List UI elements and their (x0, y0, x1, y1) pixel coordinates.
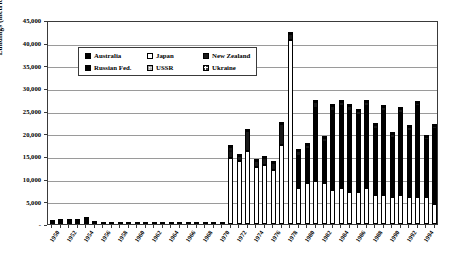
bar-segment (407, 125, 412, 127)
legend-swatch-russian-fed (85, 65, 91, 71)
bar-segment (177, 222, 182, 224)
legend-item-russian-fed[interactable]: Russian Fed. (85, 64, 147, 71)
bar-segment (398, 195, 403, 224)
y-axis-tick-label: 5,000 (0, 199, 41, 206)
bar-segment (296, 188, 301, 224)
bar-stack (203, 223, 208, 224)
bar-segment (305, 145, 310, 150)
bar-stack (296, 151, 301, 224)
legend-row: Russian Fed. USSR Ukraine (85, 64, 250, 71)
x-axis-tick-mark (417, 225, 418, 228)
bar-segment (262, 165, 267, 224)
bar-segment (143, 222, 148, 224)
gridline (48, 181, 437, 182)
x-axis-tick-label: 1994 (415, 229, 434, 253)
bar-segment (254, 167, 259, 224)
bar-segment (50, 220, 55, 224)
bar-stack (398, 109, 403, 224)
bar-segment (194, 222, 199, 224)
bar-stack (228, 147, 233, 224)
bar-segment (356, 115, 361, 192)
gridline (48, 113, 437, 114)
gridline (48, 158, 437, 159)
bar-stack (50, 220, 55, 224)
bar-segment (330, 111, 335, 190)
legend-item-australia[interactable]: Australia (85, 52, 147, 59)
bar-segment (305, 149, 310, 183)
bar-segment (58, 219, 63, 224)
bar-stack (237, 156, 242, 224)
legend-item-ussr[interactable]: USSR (147, 64, 203, 71)
bar-stack (347, 106, 352, 224)
x-axis-tick-mark (213, 225, 214, 228)
legend-swatch-ukraine (203, 65, 209, 71)
x-axis-tick-mark (102, 225, 103, 228)
bar-segment (373, 129, 378, 195)
bar-segment (330, 104, 335, 106)
bar-stack (373, 125, 378, 224)
bar-segment (279, 124, 284, 144)
x-axis-tick-mark (170, 225, 171, 228)
bar-segment (296, 149, 301, 151)
chart-container: Landings (metric tons) -5,00010,00015,00… (0, 0, 451, 267)
bar-segment (373, 123, 378, 125)
x-axis-tick-mark (179, 225, 180, 228)
y-axis-tick-label: 10,000 (0, 176, 41, 183)
bar-segment (381, 195, 386, 224)
bar-stack (67, 219, 72, 224)
x-axis-tick-mark (400, 225, 401, 228)
bar-segment (237, 161, 242, 224)
bar-segment (203, 222, 208, 224)
bar-segment (347, 104, 352, 106)
bar-segment (339, 100, 344, 102)
legend-item-japan[interactable]: Japan (147, 52, 203, 59)
bar-segment (313, 100, 318, 102)
bar-segment (92, 221, 97, 224)
legend-item-ukraine[interactable]: Ukraine (203, 64, 236, 71)
bar-segment (364, 188, 369, 224)
bar-segment (398, 107, 403, 109)
bar-segment (424, 140, 429, 197)
bar-segment (169, 222, 174, 224)
bar-segment (424, 135, 429, 137)
bar-segment (364, 106, 369, 188)
bar-stack (135, 222, 140, 224)
y-axis-tick-label: - (0, 221, 41, 228)
bar-segment (262, 158, 267, 165)
bar-segment (322, 136, 327, 138)
bar-segment (415, 106, 420, 197)
bar-stack (152, 222, 157, 224)
x-axis-tick-mark (332, 225, 333, 228)
gridline (48, 135, 437, 136)
bar-segment (424, 137, 429, 141)
x-axis-tick-mark (85, 225, 86, 228)
bar-segment (322, 138, 327, 143)
bar-stack (356, 110, 361, 224)
legend-swatch-ussr (147, 65, 153, 71)
bar-segment (322, 183, 327, 224)
bar-segment (330, 190, 335, 224)
bar-segment (305, 143, 310, 145)
bar-segment (254, 161, 259, 168)
bar-segment (228, 158, 233, 224)
x-axis-tick-mark (153, 225, 154, 228)
x-axis-tick-mark (315, 225, 316, 228)
bar-segment (279, 122, 284, 124)
bar-stack (58, 219, 63, 224)
y-axis-tick-label: 25,000 (0, 108, 41, 115)
bar-segment (364, 100, 369, 102)
bar-stack (322, 138, 327, 224)
bar-segment (228, 145, 233, 147)
bar-stack (305, 144, 310, 224)
bar-stack (169, 223, 174, 224)
x-axis-tick-mark (323, 225, 324, 228)
bar-segment (424, 197, 429, 224)
x-axis-tick-mark (111, 225, 112, 228)
bar-stack (364, 101, 369, 224)
x-axis-tick-mark (221, 225, 222, 228)
x-axis-tick-mark (255, 225, 256, 228)
legend-item-new-zealand[interactable]: New Zealand (203, 52, 250, 59)
legend-swatch-australia (85, 53, 91, 59)
bar-stack (254, 160, 259, 224)
bar-segment (288, 40, 293, 224)
